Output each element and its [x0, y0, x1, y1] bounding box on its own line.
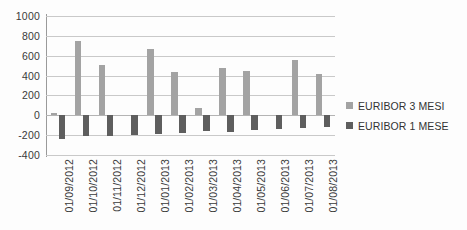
x-axis-tick-labels: 01/09/201201/10/201201/11/201201/12/2012…: [46, 157, 335, 229]
x-tick-label: 01/04/2013: [231, 159, 243, 213]
bar-euribor-3-mesi: [195, 108, 202, 115]
bar-euribor-1-mese: [179, 115, 186, 133]
legend-label: EURIBOR 3 MESI: [358, 100, 445, 112]
bar-euribor-1-mese: [59, 115, 66, 138]
bar-euribor-1-mese: [300, 115, 307, 128]
y-tick-label-200: 200: [22, 89, 40, 101]
bar-euribor-3-mesi: [171, 72, 178, 116]
legend-swatch-icon: [346, 122, 353, 129]
bars-layer: [46, 16, 335, 155]
x-tick-label: 01/09/2012: [63, 159, 75, 213]
bar-euribor-3-mesi: [147, 49, 154, 116]
y-tick-label-400: 400: [22, 70, 40, 82]
bar-group: [94, 16, 118, 155]
x-tick-label: 01/07/2013: [303, 159, 315, 213]
x-tick-label: 01/01/2013: [159, 159, 171, 213]
y-tick-label--200: -200: [18, 129, 40, 141]
bar-group: [46, 16, 70, 155]
bar-group: [215, 16, 239, 155]
y-tick-label-600: 600: [22, 50, 40, 62]
bar-group: [70, 16, 94, 155]
bar-euribor-1-mese: [83, 115, 90, 136]
bar-group: [142, 16, 166, 155]
bar-euribor-3-mesi: [292, 60, 299, 115]
x-tick-label: 01/05/2013: [255, 159, 267, 213]
plot-area: 10008006004002000-200-400: [46, 16, 335, 155]
bar-euribor-3-mesi: [75, 41, 82, 115]
bar-group: [239, 16, 263, 155]
bar-group: [166, 16, 190, 155]
bar-euribor-3-mesi: [316, 74, 323, 116]
y-tick-label-800: 800: [22, 30, 40, 42]
legend-item[interactable]: EURIBOR 3 MESI: [346, 97, 464, 114]
legend-swatch-icon: [346, 102, 353, 109]
bar-group: [311, 16, 335, 155]
bar-euribor-1-mese: [227, 115, 234, 131]
legend-item[interactable]: EURIBOR 1 MESE: [346, 117, 464, 134]
bar-euribor-1-mese: [131, 115, 138, 134]
x-tick-label: 01/08/2013: [327, 159, 339, 213]
bar-euribor-3-mesi: [51, 113, 58, 115]
bar-euribor-1-mese: [324, 115, 331, 127]
y-tick-label-1000: 1000: [16, 10, 40, 22]
bar-chart: 10008006004002000-200-400 01/09/201201/1…: [0, 0, 467, 230]
bar-euribor-1-mese: [251, 115, 258, 129]
chart-legend: EURIBOR 3 MESIEURIBOR 1 MESE: [346, 97, 464, 137]
bar-euribor-1-mese: [107, 115, 114, 135]
bar-group: [263, 16, 287, 155]
x-tick-label: 01/03/2013: [207, 159, 219, 213]
x-tick-label: 01/11/2012: [111, 159, 123, 212]
gridline--400: [46, 155, 335, 156]
legend-label: EURIBOR 1 MESE: [358, 120, 449, 132]
bar-euribor-3-mesi: [99, 65, 106, 116]
y-tick-label--400: -400: [18, 149, 40, 161]
bar-euribor-3-mesi: [243, 71, 250, 115]
x-tick-label: 01/02/2013: [183, 159, 195, 213]
bar-euribor-1-mese: [155, 115, 162, 133]
x-tick-label: 01/10/2012: [87, 159, 99, 213]
x-tick-label: 01/06/2013: [279, 159, 291, 213]
bar-euribor-3-mesi: [219, 68, 226, 116]
bar-group: [118, 16, 142, 155]
bar-euribor-1-mese: [203, 115, 210, 131]
bar-euribor-1-mese: [276, 115, 283, 128]
bar-group: [287, 16, 311, 155]
bar-group: [191, 16, 215, 155]
y-tick-label-0: 0: [34, 109, 40, 121]
x-tick-label: 01/12/2012: [135, 159, 147, 213]
